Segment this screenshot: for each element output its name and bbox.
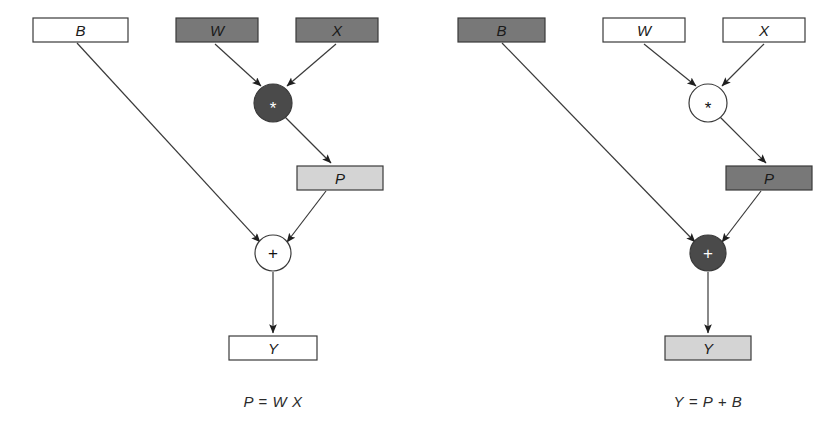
node-left-x[interactable]: X — [296, 18, 378, 42]
op-glyph-plus: + — [703, 244, 713, 263]
edge-right-p-to-add — [722, 191, 761, 242]
node-right-x[interactable]: X — [723, 18, 805, 42]
node-label: B — [75, 22, 85, 39]
node-left-y[interactable]: Y — [229, 336, 317, 360]
node-right-mul[interactable]: * — [689, 84, 727, 122]
edge-left-w-to-mul — [215, 44, 261, 86]
edge-right-w-to-mul — [644, 44, 696, 86]
node-label: B — [496, 22, 506, 39]
caption-right: Y = P + B — [674, 393, 743, 410]
edges-layer — [77, 43, 766, 333]
edge-left-x-to-mul — [287, 44, 336, 86]
captions-layer: P = W XY = P + B — [243, 393, 742, 410]
op-glyph-asterisk: * — [270, 99, 277, 118]
node-label: Y — [703, 340, 714, 357]
node-left-p[interactable]: P — [297, 166, 383, 190]
node-label: W — [210, 22, 226, 39]
nodes-layer: BWX*P+YBWX*P+Y — [33, 18, 812, 360]
node-label: P — [764, 170, 774, 187]
caption-left: P = W X — [243, 393, 302, 410]
node-label: P — [335, 170, 345, 187]
node-label: X — [758, 22, 770, 39]
node-right-b[interactable]: B — [458, 18, 545, 42]
node-left-w[interactable]: W — [176, 18, 258, 42]
node-label: Y — [268, 340, 279, 357]
edge-left-mul-to-p — [285, 117, 331, 163]
node-right-w[interactable]: W — [603, 18, 685, 42]
node-right-add[interactable]: + — [690, 235, 726, 271]
node-left-b[interactable]: B — [33, 18, 128, 42]
node-label: X — [331, 22, 343, 39]
node-left-mul[interactable]: * — [254, 84, 292, 122]
edge-right-b-to-add — [502, 43, 695, 242]
edge-left-b-to-add — [77, 43, 260, 242]
edge-right-x-to-mul — [722, 44, 764, 86]
op-glyph-plus: + — [268, 244, 278, 263]
edge-right-mul-to-p — [720, 117, 766, 163]
node-left-add[interactable]: + — [255, 235, 291, 271]
computation-graph-svg: BWX*P+YBWX*P+Y P = W XY = P + B — [0, 0, 840, 442]
node-label: W — [637, 22, 653, 39]
node-right-y[interactable]: Y — [665, 336, 751, 360]
node-right-p[interactable]: P — [726, 166, 812, 190]
diagram-canvas: BWX*P+YBWX*P+Y P = W XY = P + B — [0, 0, 840, 442]
op-glyph-asterisk: * — [705, 99, 712, 118]
edge-left-p-to-add — [287, 191, 326, 242]
